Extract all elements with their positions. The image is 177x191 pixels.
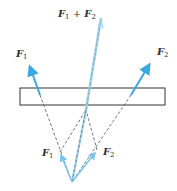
parallelogram-side-right [86,110,97,150]
resultant-line-dash [86,18,101,110]
label-F1-bottom: F1 [42,148,54,160]
label-F1-top: F1 [16,49,28,61]
force-arrow-F1 [30,67,40,95]
body-rectangle [20,88,165,105]
label-resultant: F1 + F2 [58,9,96,21]
force-arrow-F2 [131,65,149,95]
small-force-arrow-F1 [61,155,72,182]
label-F2-bottom: F2 [103,147,115,159]
label-F2-top: F2 [157,47,169,59]
diagram-canvas [0,0,177,191]
force-diagram: F1 + F2 F1 F2 F1 F2 [0,0,177,191]
